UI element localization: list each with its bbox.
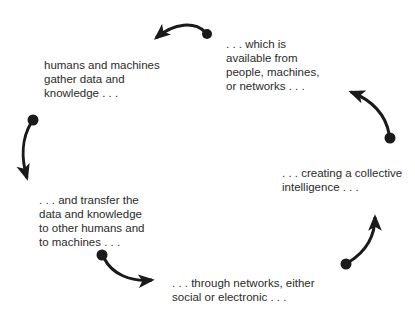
step-collective: . . . creating a collective intelligence… xyxy=(282,166,402,194)
cycle-diagram: humans and machines gather data and know… xyxy=(0,0,415,311)
step-through: . . . through networks, either social or… xyxy=(172,276,315,304)
curved-arrow-right-icon xyxy=(97,250,153,281)
curved-arrow-left-icon xyxy=(156,25,212,39)
step-gather: humans and machines gather data and know… xyxy=(44,58,160,100)
arrows-layer xyxy=(0,0,415,311)
curved-arrow-down-icon xyxy=(23,115,38,179)
step-available: . . . which is available from people, ma… xyxy=(226,37,319,93)
curved-arrow-up-icon xyxy=(341,217,376,270)
step-transfer: . . . and transfer the data and knowledg… xyxy=(39,193,145,249)
curved-arrow-up-left-icon xyxy=(351,92,396,144)
